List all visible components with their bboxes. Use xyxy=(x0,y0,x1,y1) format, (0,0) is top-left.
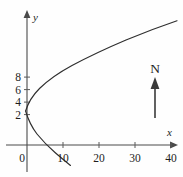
north-arrow: N xyxy=(150,61,160,118)
north-arrow-label: N xyxy=(150,61,160,76)
x-tick-label-20: 20 xyxy=(93,152,105,164)
y-tick-label-6: 6 xyxy=(15,84,21,96)
y-tick-label-4: 4 xyxy=(15,96,21,108)
x-tick-label-30: 30 xyxy=(129,152,141,164)
x-tick-label-10: 10 xyxy=(57,152,69,164)
y-tick-label-8: 8 xyxy=(15,71,21,83)
north-arrow-head xyxy=(151,77,160,89)
x-axis-label: x xyxy=(166,126,172,138)
parabola-figure: y x 0 10 20 30 40 2 4 6 8 N xyxy=(0,0,183,177)
plot-area: y x 0 10 20 30 40 2 4 6 8 N xyxy=(0,0,183,177)
y-axis-arrowhead xyxy=(24,10,31,18)
x-axis xyxy=(6,142,178,149)
origin-label: 0 xyxy=(19,152,25,164)
y-axis xyxy=(24,10,31,172)
x-tick-label-40: 40 xyxy=(165,152,177,164)
y-axis-label: y xyxy=(32,11,38,23)
y-tick-label-2: 2 xyxy=(15,109,21,121)
